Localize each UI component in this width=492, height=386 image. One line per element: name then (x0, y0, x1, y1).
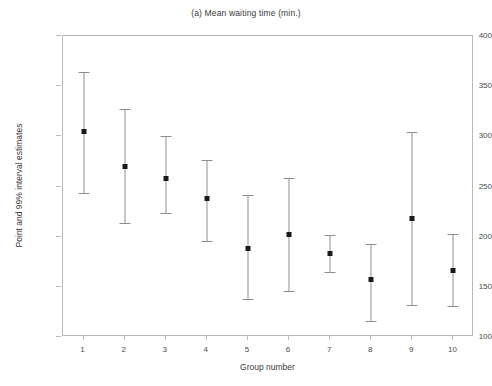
error-bar-lower-cap (407, 305, 418, 306)
error-bar-lower-cap (242, 299, 253, 300)
error-bar-lower-cap (448, 306, 459, 307)
error-bar-upper-cap (448, 234, 459, 235)
error-bar-group-7 (325, 36, 336, 337)
y-tick-mark (56, 85, 61, 86)
x-tick-label: 8 (368, 345, 372, 354)
x-tick-label: 3 (163, 345, 167, 354)
data-point-marker (451, 268, 456, 273)
error-bar-group-3 (160, 36, 171, 337)
error-bar-upper-cap (325, 235, 336, 236)
error-bar-line (165, 136, 166, 212)
error-bar-group-5 (242, 36, 253, 337)
figure-container: (a) Mean waiting time (min.) Point and 9… (0, 0, 492, 386)
error-bar-lower-cap (284, 291, 295, 292)
x-tick-label: 2 (121, 345, 125, 354)
x-tick-label: 5 (245, 345, 249, 354)
data-point-marker (410, 216, 415, 221)
y-tick-mark (56, 186, 61, 187)
y-tick-mark (56, 286, 61, 287)
error-bar-upper-cap (242, 195, 253, 196)
error-bar-upper-cap (201, 160, 212, 161)
y-tick-mark (56, 135, 61, 136)
x-tick-label: 7 (327, 345, 331, 354)
x-tick-label: 4 (204, 345, 208, 354)
y-axis-label: Point and 99% interval estimates (14, 35, 28, 336)
data-point-marker (245, 246, 250, 251)
x-tick-label: 10 (448, 345, 457, 354)
data-point-marker (287, 232, 292, 237)
plot-area (62, 35, 473, 336)
error-bar-lower-cap (366, 321, 377, 322)
y-tick-mark (56, 35, 61, 36)
error-bar-upper-cap (160, 136, 171, 137)
error-bar-lower-cap (325, 272, 336, 273)
data-point-marker (163, 176, 168, 181)
error-bar-group-4 (201, 36, 212, 337)
y-tick-mark (56, 236, 61, 237)
error-bar-lower-cap (160, 213, 171, 214)
error-bar-lower-cap (119, 223, 130, 224)
data-layer (63, 36, 472, 335)
x-axis-label: Group number (62, 362, 473, 372)
error-bar-group-2 (119, 36, 130, 337)
error-bar-group-9 (407, 36, 418, 337)
data-point-marker (204, 196, 209, 201)
data-point-marker (369, 277, 374, 282)
data-point-marker (122, 164, 127, 169)
error-bar-upper-cap (284, 178, 295, 179)
chart-title: (a) Mean waiting time (min.) (0, 8, 492, 18)
error-bar-upper-cap (119, 109, 130, 110)
data-point-marker (328, 251, 333, 256)
error-bar-upper-cap (366, 244, 377, 245)
error-bar-upper-cap (78, 72, 89, 73)
y-tick-mark (56, 336, 61, 337)
x-tick-label: 6 (286, 345, 290, 354)
error-bar-group-10 (448, 36, 459, 337)
error-bar-line (371, 244, 372, 321)
x-tick-label: 9 (409, 345, 413, 354)
error-bar-group-6 (284, 36, 295, 337)
data-point-marker (81, 129, 86, 134)
x-tick-label: 1 (80, 345, 84, 354)
error-bar-group-1 (78, 36, 89, 337)
error-bar-group-8 (366, 36, 377, 337)
error-bar-upper-cap (407, 132, 418, 133)
error-bar-lower-cap (78, 193, 89, 194)
error-bar-lower-cap (201, 241, 212, 242)
